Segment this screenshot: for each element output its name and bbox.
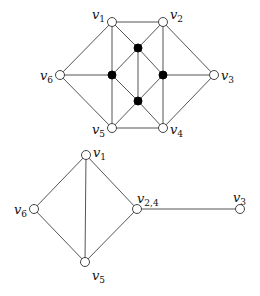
edge-bB-v4 <box>138 101 163 128</box>
vertex-v6 <box>56 71 65 80</box>
vertex-label-v6: v6 <box>40 68 53 85</box>
vertex-label-v6: v6 <box>14 202 27 219</box>
top-graph-labels: v1v2v3v4v5v6 <box>40 7 234 139</box>
edge-v5-v24 <box>85 209 137 262</box>
edge-v1-v6 <box>34 155 86 209</box>
vertex-label-v5: v5 <box>92 122 105 139</box>
vertex-v1 <box>82 151 91 160</box>
vertex-label-v24: v2,4 <box>137 191 159 208</box>
edge-v6-v5 <box>60 75 112 128</box>
edge-v3-v4 <box>163 75 214 128</box>
edge-v6-v5 <box>34 209 85 262</box>
top-graph: v1v2v3v4v5v6 <box>40 7 234 139</box>
top-graph-edges <box>60 22 214 128</box>
edge-v1-v24 <box>86 155 137 209</box>
vertex-label-v5: v5 <box>92 268 105 285</box>
vertex-v1 <box>108 18 117 27</box>
edge-v1-v5 <box>85 155 86 262</box>
vertex-bT <box>134 44 142 52</box>
vertex-v3 <box>210 71 219 80</box>
vertex-bB <box>134 97 142 105</box>
vertex-v5 <box>81 258 90 267</box>
vertex-label-v1: v1 <box>92 7 105 24</box>
edge-v1-bT <box>112 22 138 48</box>
bottom-graph-labels: v1v6v2,4v3v5 <box>14 145 246 285</box>
vertex-label-v1: v1 <box>93 145 106 162</box>
graph-contraction-diagram: v1v2v3v4v5v6 v1v6v2,4v3v5 <box>0 0 260 296</box>
vertex-v5 <box>108 124 117 133</box>
edge-bB-v5 <box>112 101 138 128</box>
vertex-label-v4: v4 <box>170 122 183 139</box>
vertex-label-v3: v3 <box>233 190 246 207</box>
vertex-bL <box>108 71 116 79</box>
edge-v2-bT <box>138 22 163 48</box>
edge-v2-v3 <box>163 22 214 75</box>
vertex-v6 <box>30 205 39 214</box>
vertex-label-v2: v2 <box>170 7 183 24</box>
edge-bT-bR <box>138 48 163 75</box>
vertex-bR <box>159 71 167 79</box>
vertex-v4 <box>159 124 168 133</box>
bottom-graph: v1v6v2,4v3v5 <box>14 145 246 285</box>
edge-bL-bB <box>112 75 138 101</box>
edge-v1-v6 <box>60 22 112 75</box>
vertex-v2 <box>159 18 168 27</box>
vertex-label-v3: v3 <box>221 68 234 85</box>
edge-bL-bT <box>112 48 138 75</box>
edge-bR-bB <box>138 75 163 101</box>
